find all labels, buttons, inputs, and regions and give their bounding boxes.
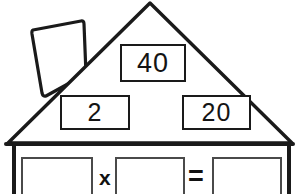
number-box-top[interactable]: 40 [120, 44, 186, 82]
multiplication-house-worksheet: 40 2 20 x = [0, 0, 297, 194]
equation-blank-a[interactable] [21, 157, 93, 194]
multiplication-operator: x [99, 167, 111, 188]
equation-row: x = [0, 155, 297, 194]
equals-operator: = [188, 163, 204, 190]
number-box-right[interactable]: 20 [182, 95, 251, 130]
number-box-right-value: 20 [202, 98, 232, 127]
equation-blank-b[interactable] [115, 157, 185, 194]
number-box-left[interactable]: 2 [60, 95, 130, 130]
number-box-left-value: 2 [88, 98, 103, 127]
number-box-top-value: 40 [137, 48, 169, 79]
equation-blank-c[interactable] [212, 157, 282, 194]
